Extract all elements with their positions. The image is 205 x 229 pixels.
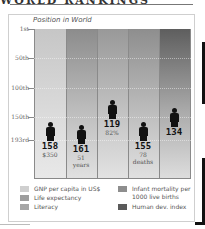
marker-infant-mortality: 155 78 deaths xyxy=(128,122,158,165)
chart-subtitle: Position in World xyxy=(33,16,92,24)
rank-value: 134 xyxy=(159,128,189,137)
person-icon xyxy=(107,100,117,120)
rank-value: 161 xyxy=(66,145,96,154)
legend-swatch xyxy=(20,195,29,201)
bottom-rule xyxy=(0,224,30,225)
rank-detail-2: deaths xyxy=(128,158,158,165)
person-icon xyxy=(45,122,55,142)
rank-value: 155 xyxy=(128,142,158,151)
marker-human-dev-index: 134 xyxy=(159,108,189,137)
column-human-dev-index xyxy=(159,29,191,178)
edge-bar xyxy=(202,158,205,224)
marker-life-expectancy: 161 51 years xyxy=(66,125,96,168)
legend-swatch xyxy=(118,186,127,192)
legend-label: Human dev. index xyxy=(132,203,186,210)
person-icon xyxy=(76,125,86,145)
legend-swatch xyxy=(118,204,127,210)
y-tick-label: 50th xyxy=(15,54,29,61)
rank-value: 158 xyxy=(35,142,65,151)
rank-detail: 51 xyxy=(66,154,96,161)
legend-label: Infant mortality per xyxy=(132,185,191,192)
legend-label: Literacy xyxy=(34,203,58,210)
rank-detail: 82% xyxy=(97,129,127,136)
person-icon xyxy=(138,122,148,142)
rank-value: 119 xyxy=(97,120,127,129)
title-rule xyxy=(10,4,193,5)
y-tick-label: 193rd xyxy=(11,136,29,143)
edge-bar xyxy=(195,222,205,225)
legend-label-2: 1000 live births xyxy=(132,193,179,200)
edge-bar xyxy=(202,42,205,104)
gridline xyxy=(34,88,191,89)
rank-detail-2: years xyxy=(66,161,96,168)
legend-swatch xyxy=(20,204,29,210)
x-axis-line xyxy=(34,178,191,179)
rank-detail: $350 xyxy=(35,151,65,158)
legend-label: Life expectancy xyxy=(34,194,81,201)
legend-swatch xyxy=(20,186,29,192)
gridline xyxy=(34,58,191,59)
rank-detail: 78 xyxy=(128,151,158,158)
person-icon xyxy=(169,108,179,128)
legend-label: GNP per capita in US$ xyxy=(34,185,100,192)
marker-gnp: 158 $350 xyxy=(35,122,65,158)
y-tick-label: 100th xyxy=(11,84,29,91)
y-tick-label: 150th xyxy=(11,113,29,120)
marker-literacy: 119 82% xyxy=(97,100,127,136)
